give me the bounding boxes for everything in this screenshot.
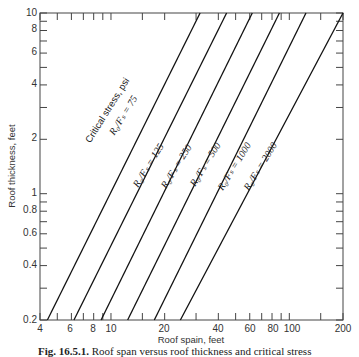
x-tick-label: 20 [158, 323, 170, 334]
x-tick-label: 80 [267, 323, 279, 334]
x-tick-labels: 4 6 8 10 20 40 60 80 100 200 [37, 323, 352, 334]
y-tick-labels: 0.2 0.4 0.6 0.8 1 2 4 6 8 10 [23, 7, 37, 325]
x-tick-label: 40 [212, 323, 224, 334]
y-tick-label: 10 [26, 7, 38, 18]
chart: 4 6 8 10 20 40 60 80 100 200 0.2 0.4 0.6… [0, 0, 359, 345]
x-tick-label: 10 [105, 323, 117, 334]
y-tick-label: 8 [31, 23, 37, 34]
x-tick-label: 200 [335, 323, 352, 334]
figure-caption-text: Roof span versus roof thickness and crit… [92, 345, 312, 357]
y-axis-ticks [40, 13, 343, 320]
x-tick-label: 6 [67, 323, 73, 334]
y-axis-title: Roof thickness, feet [6, 124, 17, 208]
y-tick-label: 0.4 [23, 259, 37, 270]
x-tick-label: 60 [244, 323, 256, 334]
y-tick-label: 0.8 [23, 204, 37, 215]
y-tick-label: 1 [31, 187, 37, 198]
line-labels: Critical stress, psi R₀/Fₛ = 75 R₀/Fₛ = … [83, 76, 279, 193]
y-tick-label: 0.2 [23, 314, 37, 325]
series-lines [47, 13, 343, 320]
x-axis-ticks [40, 13, 343, 320]
figure-number: Fig. 16.5.1. [38, 345, 89, 357]
plot-frame [40, 13, 343, 320]
figure-caption: Fig. 16.5.1. Roof span versus roof thick… [38, 345, 311, 357]
x-tick-label: 100 [284, 323, 301, 334]
x-axis-title: Roof spain, feet [158, 334, 225, 345]
y-tick-label: 2 [31, 132, 37, 143]
y-tick-label: 0.6 [23, 227, 37, 238]
x-tick-label: 4 [37, 323, 43, 334]
x-tick-label: 8 [90, 323, 96, 334]
y-tick-label: 6 [31, 46, 37, 57]
y-tick-label: 4 [31, 78, 37, 89]
